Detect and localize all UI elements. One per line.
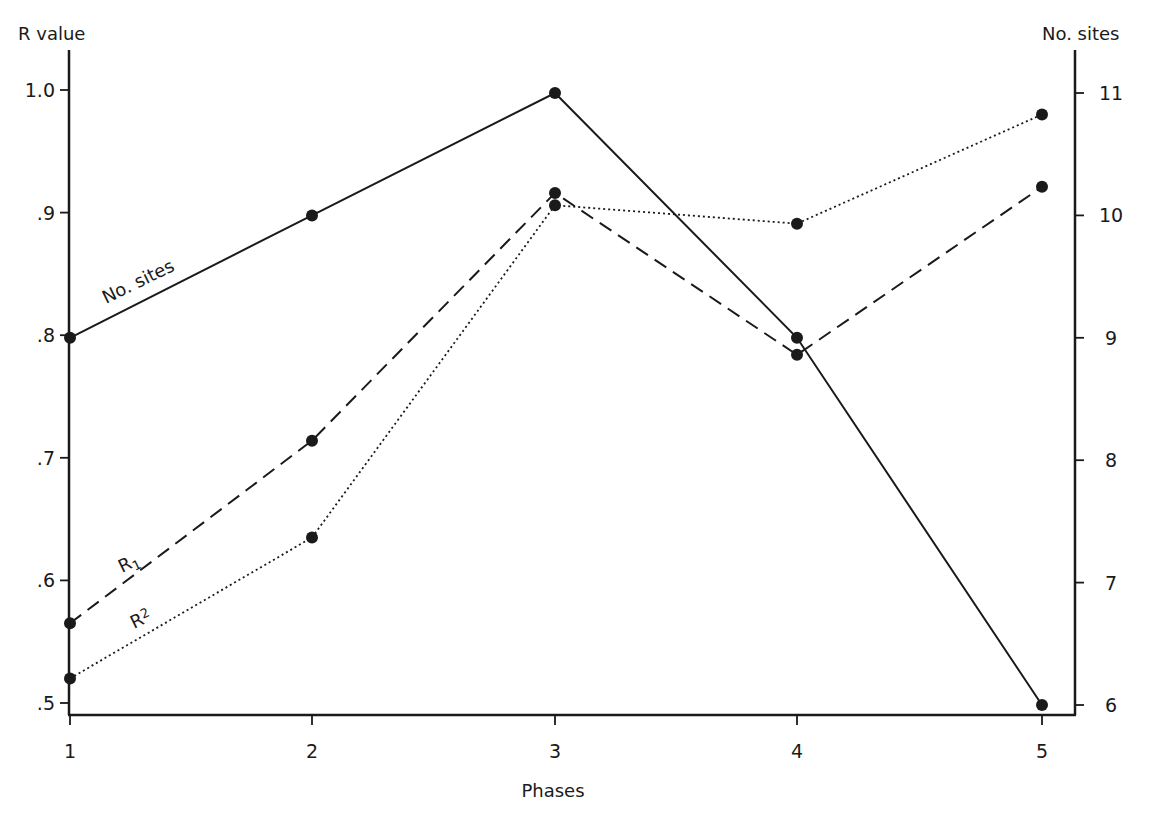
data-point xyxy=(791,349,803,361)
y-right-tick-label: 6 xyxy=(1105,694,1117,716)
line-chart: .5.6.7.8.91.06789101112345 R value No. s… xyxy=(0,0,1154,815)
axes: .5.6.7.8.91.06789101112345 xyxy=(25,50,1123,762)
series-no-sites xyxy=(64,87,1048,711)
series-label-r2: R2 xyxy=(127,605,155,633)
y-right-tick-label: 10 xyxy=(1099,204,1123,226)
y-right-tick-label: 11 xyxy=(1099,82,1123,104)
series-label-sites: No. sites xyxy=(99,255,178,308)
data-point xyxy=(306,435,318,447)
data-point xyxy=(549,187,561,199)
data-point xyxy=(64,672,76,684)
x-tick-label: 4 xyxy=(791,740,803,762)
y-left-tick-label: .5 xyxy=(37,692,55,714)
y-axis-left-title: R value xyxy=(18,23,85,44)
y-left-tick-label: .8 xyxy=(37,324,55,346)
x-tick-label: 1 xyxy=(64,740,76,762)
x-tick-label: 2 xyxy=(306,740,318,762)
data-point xyxy=(549,87,561,99)
y-left-tick-label: .7 xyxy=(37,447,55,469)
y-left-tick-label: .9 xyxy=(37,202,55,224)
series-label-r1: R1 xyxy=(115,549,144,580)
data-point xyxy=(306,531,318,543)
series-layer xyxy=(64,87,1048,711)
y-right-tick-label: 7 xyxy=(1105,572,1117,594)
data-point xyxy=(64,332,76,344)
x-tick-label: 3 xyxy=(549,740,561,762)
y-right-tick-label: 9 xyxy=(1105,327,1117,349)
x-axis-title: Phases xyxy=(521,780,584,801)
y-axis-right-title: No. sites xyxy=(1042,23,1120,44)
data-point xyxy=(791,218,803,230)
series-line xyxy=(70,115,1042,679)
data-point xyxy=(549,199,561,211)
data-point xyxy=(1036,109,1048,121)
y-right-tick-label: 8 xyxy=(1105,449,1117,471)
y-left-tick-label: 1.0 xyxy=(25,79,55,101)
data-point xyxy=(1036,181,1048,193)
x-tick-label: 5 xyxy=(1036,740,1048,762)
series-line xyxy=(70,187,1042,623)
series-line xyxy=(70,93,1042,705)
data-point xyxy=(306,209,318,221)
y-left-tick-label: .6 xyxy=(37,569,55,591)
data-point xyxy=(791,332,803,344)
series-r1 xyxy=(64,181,1048,629)
data-point xyxy=(64,617,76,629)
data-point xyxy=(1036,699,1048,711)
